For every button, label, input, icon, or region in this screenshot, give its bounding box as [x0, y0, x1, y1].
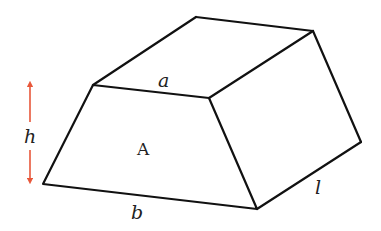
label-b: b: [131, 201, 143, 223]
edge-top-left-depth: [93, 17, 196, 85]
prism-diagram: a b h l A: [0, 0, 381, 231]
label-a: a: [158, 69, 169, 91]
front-face: [43, 85, 257, 209]
label-area-A: A: [136, 139, 150, 159]
label-l: l: [315, 176, 321, 198]
edge-bottom-right-depth: [257, 142, 361, 209]
edge-back-top: [196, 17, 313, 31]
edge-back-right-slant: [313, 31, 361, 142]
edge-top-right-depth: [209, 31, 313, 98]
label-h: h: [24, 125, 36, 147]
